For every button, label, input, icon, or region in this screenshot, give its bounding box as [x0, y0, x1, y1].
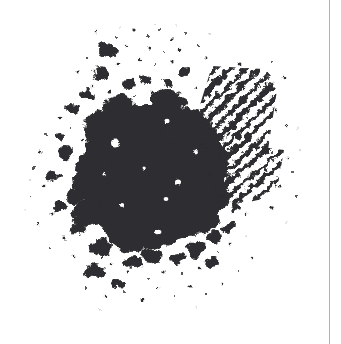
page-edge-rule	[329, 0, 330, 344]
scan-page: Scanned ink blot splatter on white paper	[0, 0, 341, 344]
ink-group	[25, 23, 321, 311]
ink-blot-artwork	[0, 0, 341, 344]
